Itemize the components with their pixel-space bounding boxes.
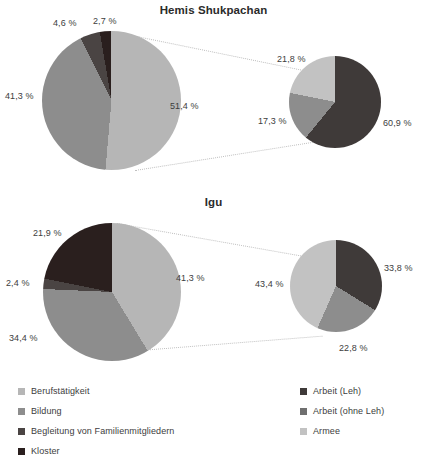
- legend-item-label: Berufstätigkeit: [31, 386, 90, 396]
- pct-hemis-detail-right: 60,9 %: [383, 118, 412, 128]
- panel-igu: Igu 41,3 % 34,4 % 2,4 % 21,9 % 33,8 % 43…: [0, 190, 427, 380]
- pct-igu-main-right: 41,3 %: [176, 273, 205, 283]
- legend-item-label: Armee: [313, 426, 340, 436]
- legend-item-label: Begleitung von Familienmitgliedern: [31, 426, 174, 436]
- legend-item-bildung[interactable]: Bildung: [18, 401, 174, 421]
- pie-igu-main: [43, 223, 181, 361]
- pct-igu-main-mid-left: 2,4 %: [6, 278, 30, 288]
- legend-swatch-icon: [18, 428, 25, 435]
- legend-item-berufstaetigkeit[interactable]: Berufstätigkeit: [18, 381, 174, 401]
- pie-hemis-detail: [289, 56, 381, 148]
- page-title-hemis: Hemis Shukpachan: [0, 4, 427, 16]
- legend-swatch-icon: [300, 388, 307, 395]
- pct-hemis-main-top-left: 4,6 %: [53, 18, 77, 28]
- pct-hemis-main-top-right: 2,7 %: [93, 16, 117, 26]
- chart-legend: Berufstätigkeit Bildung Begleitung von F…: [0, 381, 427, 462]
- legend-item-armee[interactable]: Armee: [300, 421, 384, 441]
- legend-swatch-icon: [18, 408, 25, 415]
- pct-igu-detail-right: 33,8 %: [384, 263, 413, 273]
- legend-column-left: Berufstätigkeit Bildung Begleitung von F…: [18, 381, 174, 461]
- legend-item-arbeit-leh[interactable]: Arbeit (Leh): [300, 381, 384, 401]
- pct-hemis-detail-left: 17,3 %: [258, 116, 287, 126]
- legend-item-label: Arbeit (ohne Leh): [313, 406, 384, 416]
- pct-igu-detail-bottom: 22,8 %: [339, 343, 368, 353]
- pct-igu-detail-left: 43,4 %: [255, 279, 284, 289]
- legend-column-right: Arbeit (Leh) Arbeit (ohne Leh) Armee: [300, 381, 384, 441]
- legend-item-kloster[interactable]: Kloster: [18, 441, 174, 461]
- legend-item-begleitung-familienmitgliedern[interactable]: Begleitung von Familienmitgliedern: [18, 421, 174, 441]
- legend-item-label: Arbeit (Leh): [313, 386, 361, 396]
- pct-hemis-main-left: 41,3 %: [5, 91, 34, 101]
- pct-igu-main-left: 34,4 %: [9, 333, 38, 343]
- panel-hemis-shukpachan: Hemis Shukpachan 51,4 % 41,3 % 4,6 % 2,7…: [0, 0, 427, 190]
- pie-igu-detail: [290, 240, 382, 332]
- legend-item-arbeit-ohne-leh[interactable]: Arbeit (ohne Leh): [300, 401, 384, 421]
- pie-hemis-main: [42, 31, 181, 170]
- legend-item-label: Bildung: [31, 406, 62, 416]
- page-title-igu: Igu: [0, 196, 427, 208]
- legend-swatch-icon: [300, 428, 307, 435]
- legend-swatch-icon: [300, 408, 307, 415]
- pct-igu-main-top-left: 21,9 %: [33, 228, 62, 238]
- legend-swatch-icon: [18, 448, 25, 455]
- connector-igu-bottom: [140, 336, 323, 351]
- legend-swatch-icon: [18, 388, 25, 395]
- pct-hemis-main-right: 51,4 %: [170, 101, 199, 111]
- pct-hemis-detail-top: 21,8 %: [277, 54, 306, 64]
- legend-item-label: Kloster: [31, 446, 60, 456]
